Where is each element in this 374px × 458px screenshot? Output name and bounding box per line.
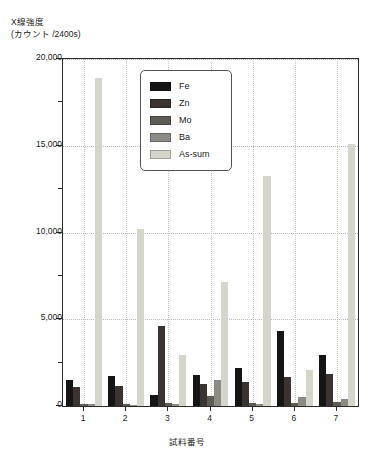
bar-as-sum-sample-3: [179, 355, 186, 406]
bar-as-sum-sample-7: [348, 144, 355, 406]
legend-swatch-mo: [150, 116, 171, 125]
bar-fe-sample-2: [108, 376, 115, 406]
y-tick-label: 15,000: [6, 139, 62, 149]
legend-swatch-as-sum: [150, 150, 171, 159]
bar-as-sum-sample-5: [263, 176, 270, 406]
bar-as-sum-sample-2: [137, 229, 144, 406]
legend: FeZnMoBaAs-sum: [140, 70, 232, 171]
x-tick: [294, 407, 295, 411]
x-tick-label: 1: [63, 413, 103, 423]
legend-item-fe: Fe: [141, 78, 231, 95]
legend-label: Ba: [179, 133, 190, 142]
x-tick: [167, 407, 168, 411]
legend-item-zn: Zn: [141, 95, 231, 112]
gridline-vertical: [126, 59, 127, 406]
bar-ba-sample-5: [256, 404, 263, 406]
bar-mo-sample-2: [123, 404, 130, 406]
bar-zn-sample-4: [200, 384, 207, 406]
bar-ba-sample-2: [130, 405, 137, 406]
y-tick-label: 10,000: [6, 226, 62, 236]
bar-fe-sample-5: [235, 368, 242, 406]
y-axis-title: X線強度 (カウント /2400s): [11, 16, 81, 40]
bar-mo-sample-7: [333, 402, 340, 406]
bar-ba-sample-6: [298, 397, 305, 406]
bar-fe-sample-3: [150, 395, 157, 406]
bar-zn-sample-1: [73, 387, 80, 406]
bar-zn-sample-5: [242, 382, 249, 406]
gridline-vertical: [295, 59, 296, 406]
bar-mo-sample-4: [207, 396, 214, 406]
legend-item-as-sum: As-sum: [141, 146, 231, 163]
legend-swatch-ba: [150, 133, 171, 142]
bar-mo-sample-5: [249, 403, 256, 406]
x-tick: [210, 407, 211, 411]
x-tick: [336, 407, 337, 411]
bar-as-sum-sample-4: [221, 282, 228, 406]
x-tick-label: 5: [232, 413, 272, 423]
x-tick-label: 7: [316, 413, 356, 423]
gridline-vertical: [84, 59, 85, 406]
bar-mo-sample-3: [165, 403, 172, 406]
y-tick-label: 20,000: [6, 52, 62, 62]
y-tick-label: 0: [6, 399, 62, 409]
legend-label: Mo: [179, 116, 192, 125]
bar-ba-sample-7: [341, 399, 348, 406]
bar-ba-sample-3: [172, 404, 179, 406]
y-tick-label: 5,000: [6, 312, 62, 322]
y-axis: 05,00010,00015,00020,000: [0, 58, 62, 407]
bar-zn-sample-6: [284, 377, 291, 406]
x-axis: 1234567: [62, 407, 359, 431]
bar-fe-sample-7: [319, 355, 326, 406]
bar-as-sum-sample-1: [95, 78, 102, 406]
bar-fe-sample-6: [277, 331, 284, 406]
legend-label: Zn: [179, 99, 190, 108]
x-tick: [252, 407, 253, 411]
legend-swatch-zn: [150, 99, 171, 108]
bar-mo-sample-1: [80, 404, 87, 406]
gridline-vertical: [337, 59, 338, 406]
x-tick-label: 4: [190, 413, 230, 423]
bar-fe-sample-4: [193, 375, 200, 406]
gridline-vertical: [253, 59, 254, 406]
x-tick: [125, 407, 126, 411]
bar-mo-sample-6: [291, 403, 298, 406]
legend-label: Fe: [179, 82, 190, 91]
x-tick-label: 2: [105, 413, 145, 423]
bar-ba-sample-1: [88, 404, 95, 406]
bar-chart: X線強度 (カウント /2400s) 05,00010,00015,00020,…: [0, 0, 374, 458]
x-axis-title: 試料番号: [0, 435, 374, 447]
y-axis-title-line1: X線強度: [11, 16, 81, 28]
bar-fe-sample-1: [66, 380, 73, 406]
legend-label: As-sum: [179, 150, 210, 159]
legend-item-ba: Ba: [141, 129, 231, 146]
bar-zn-sample-3: [158, 326, 165, 406]
x-tick-label: 3: [147, 413, 187, 423]
bar-ba-sample-4: [214, 380, 221, 406]
legend-swatch-fe: [150, 82, 171, 91]
bar-zn-sample-2: [115, 386, 122, 406]
y-axis-title-line2: (カウント /2400s): [11, 28, 81, 40]
legend-item-mo: Mo: [141, 112, 231, 129]
bar-zn-sample-7: [326, 374, 333, 406]
x-tick-label: 6: [274, 413, 314, 423]
x-tick: [83, 407, 84, 411]
bar-as-sum-sample-6: [306, 370, 313, 406]
